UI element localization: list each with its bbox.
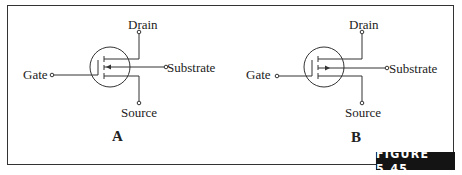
mosfet-symbol-b	[275, 30, 389, 105]
gate-label-b: Gate	[246, 67, 271, 82]
figure-number-badge: FIGURE 5.45	[376, 152, 455, 170]
substrate-label-a: Substrate	[167, 60, 216, 75]
substrate-label-b: Substrate	[389, 61, 438, 76]
panel-caption-b: B	[351, 129, 361, 145]
source-label-a: Source	[121, 105, 157, 120]
arrow-in-icon	[106, 65, 111, 70]
source-label-b: Source	[345, 105, 381, 120]
drain-label-a: Drain	[128, 17, 158, 32]
drain-label-b: Drain	[349, 17, 379, 32]
arrow-out-icon	[325, 66, 330, 71]
panel-caption-a: A	[112, 128, 123, 144]
gate-label-a: Gate	[23, 67, 48, 82]
